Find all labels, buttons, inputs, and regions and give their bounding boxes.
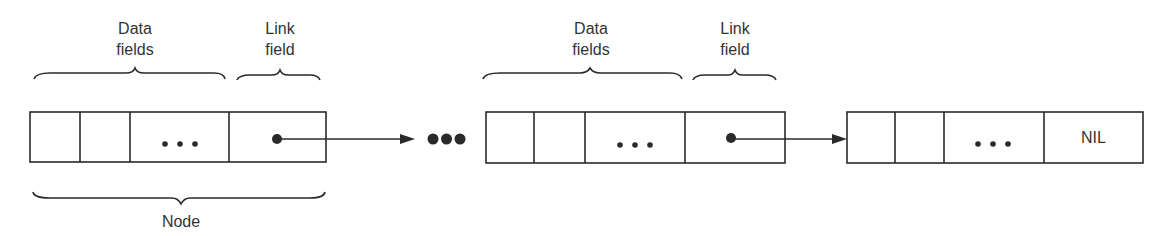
ellipsis-dot <box>455 134 466 145</box>
ellipsis-dot <box>441 134 452 145</box>
node-1 <box>30 112 326 162</box>
arrowhead-icon <box>400 134 415 144</box>
pointer-dot-2 <box>726 133 736 143</box>
brace-data-fields-1 <box>34 68 225 79</box>
brace-node <box>33 192 325 204</box>
label-line: Data <box>100 18 170 39</box>
label-line: Link <box>250 18 310 39</box>
pointer-dot-1 <box>272 134 282 144</box>
data-fields-label-1: Data fields <box>100 18 170 60</box>
brace-link-field-2 <box>693 70 776 80</box>
brace-data-fields-2 <box>483 68 682 79</box>
nil-label: NIL <box>1044 127 1143 148</box>
label-line: Data <box>556 18 626 39</box>
label-line: fields <box>556 39 626 60</box>
data-fields-label-2: Data fields <box>556 18 626 60</box>
ellipsis-dot <box>428 134 439 145</box>
arrowhead-icon <box>832 134 847 144</box>
label-line: field <box>250 39 310 60</box>
label-line: field <box>705 39 765 60</box>
link-field-label-2: Link field <box>705 18 765 60</box>
link-field-label-1: Link field <box>250 18 310 60</box>
node-2 <box>486 112 785 163</box>
node-label: Node <box>146 211 216 232</box>
label-line: Link <box>705 18 765 39</box>
brace-link-field-1 <box>237 70 320 80</box>
label-line: fields <box>100 39 170 60</box>
